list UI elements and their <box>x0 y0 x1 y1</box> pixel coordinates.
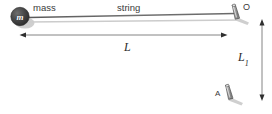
dimension-line-L <box>20 32 228 37</box>
dimension-L1-arrow-bottom <box>260 95 265 102</box>
mass-label: mass <box>33 3 56 13</box>
string-label: string <box>117 3 140 13</box>
dimension-L-arrow-right <box>221 32 228 37</box>
dimension-L-arrow-left <box>20 32 27 37</box>
length-L1-base: L <box>238 50 245 64</box>
peg-a-group <box>225 84 243 106</box>
length-L1-subscript: 1 <box>245 59 249 68</box>
mass-symbol-label: m <box>17 12 24 22</box>
length-L-label: L <box>124 41 131 53</box>
length-L1-label: L1 <box>238 51 249 66</box>
diagram-canvas <box>0 0 272 114</box>
dimension-line-L1 <box>260 19 265 101</box>
string-shadow-line <box>28 20 240 22</box>
point-o-label: O <box>243 3 250 12</box>
point-a-label: A <box>215 90 220 98</box>
string-line <box>29 14 235 18</box>
physics-diagram-pendulum: mass string m L L1 O A <box>0 0 272 114</box>
dimension-L1-arrow-top <box>260 19 265 26</box>
